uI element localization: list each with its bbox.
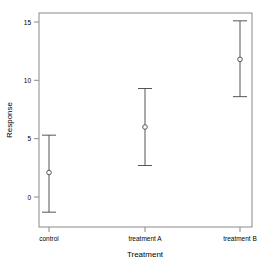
y-tick-label-10: 10 (24, 77, 32, 84)
y-axis-title: Response (5, 101, 14, 138)
x-axis-ticks (49, 227, 240, 232)
data-marker-treatment-a (143, 125, 148, 130)
chart-container: 0 5 10 15 Response control treatment A t… (0, 0, 275, 263)
x-axis-tick-labels: control treatment A treatment B (39, 235, 257, 242)
data-marker-control (47, 170, 52, 175)
x-tick-label-control: control (39, 235, 59, 242)
y-tick-label-15: 15 (24, 19, 32, 26)
x-axis-title: Treatment (127, 250, 164, 259)
y-axis-ticks (34, 22, 39, 197)
errorbar-chart: 0 5 10 15 Response control treatment A t… (0, 0, 275, 263)
y-axis-tick-labels: 0 5 10 15 (24, 19, 32, 201)
x-tick-label-treatment-a: treatment A (128, 235, 162, 242)
y-tick-label-5: 5 (27, 135, 31, 142)
data-marker-treatment-b (238, 57, 243, 62)
y-tick-label-0: 0 (27, 194, 31, 201)
x-tick-label-treatment-b: treatment B (223, 235, 257, 242)
